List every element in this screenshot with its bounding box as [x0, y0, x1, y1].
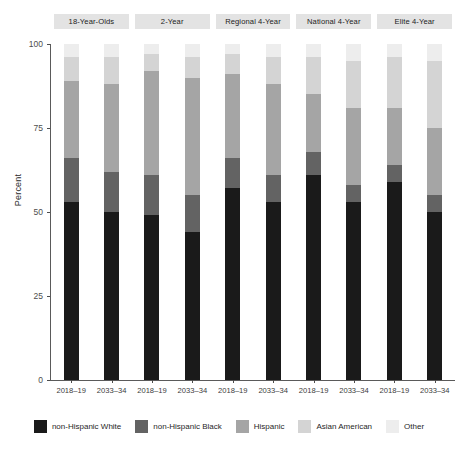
legend-swatch-icon: [386, 420, 399, 433]
x-axis-tick-label: 2033–34: [91, 386, 131, 395]
bar-group: [51, 44, 132, 380]
bar-segment: [104, 84, 119, 171]
chart-legend: non-Hispanic Whitenon-Hispanic BlackHisp…: [0, 420, 458, 433]
bar-group: [374, 44, 455, 380]
x-axis-tick-label: 2018–19: [374, 386, 414, 395]
x-axis-tick-label: 2018–19: [293, 386, 333, 395]
bar-segment: [387, 108, 402, 165]
legend-label: Asian American: [316, 422, 372, 431]
bar-segment: [225, 74, 240, 158]
x-axis-tick-mark: [71, 380, 72, 383]
facet-panel: 18-Year-Olds2018–192033–34: [51, 14, 132, 382]
panel-plot-area: 2018–192033–34: [374, 44, 455, 381]
y-axis-tick-label: 50: [34, 207, 43, 217]
bar-segment: [144, 71, 159, 175]
bar-segment: [306, 94, 321, 151]
x-axis-tick-label: 2033–34: [334, 386, 374, 395]
stacked-bar[interactable]: [387, 44, 402, 380]
x-axis-tick-label: 2033–34: [253, 386, 293, 395]
x-axis-tick-label: 2018–19: [51, 386, 91, 395]
bar-segment: [104, 57, 119, 84]
bar-segment: [185, 195, 200, 232]
stacked-bar[interactable]: [64, 44, 79, 380]
legend-swatch-icon: [34, 420, 47, 433]
facet-strip-18-year-olds: 18-Year-Olds: [54, 14, 129, 29]
bar-segment: [306, 152, 321, 176]
x-axis-tick-mark: [233, 380, 234, 383]
bar-segment: [64, 57, 79, 81]
x-axis-tick-label: 2018–19: [213, 386, 253, 395]
bar-segment: [144, 44, 159, 54]
bar-segment: [346, 185, 361, 202]
panel-plot-area: 2018–192033–34: [213, 44, 294, 381]
stacked-bar[interactable]: [346, 44, 361, 380]
x-axis-tick-mark: [314, 380, 315, 383]
x-axis-ticks: 2018–192033–34: [374, 380, 455, 406]
facet-strip-label: 2-Year: [161, 17, 184, 26]
facet-strip-elite-4-year: Elite 4-Year: [377, 14, 452, 29]
stacked-bar[interactable]: [185, 44, 200, 380]
facet-panel: National 4-Year2018–192033–34: [293, 14, 374, 382]
legend-item[interactable]: Hispanic: [236, 420, 285, 433]
bar-segment: [427, 61, 442, 128]
bar-segment: [266, 175, 281, 202]
legend-swatch-icon: [298, 420, 311, 433]
x-axis-tick-label: 2018–19: [132, 386, 172, 395]
x-axis-tick: 2018–19: [213, 380, 253, 406]
legend-item[interactable]: non-Hispanic White: [34, 420, 121, 433]
bar-segment: [64, 202, 79, 380]
y-axis-tick-label: 25: [34, 291, 43, 301]
stacked-bar[interactable]: [306, 44, 321, 380]
facet-panel: Regional 4-Year2018–192033–34: [213, 14, 294, 382]
legend-label: Other: [404, 422, 424, 431]
facet-panels: 18-Year-Olds2018–192033–342-Year2018–192…: [51, 14, 455, 382]
facet-strip-label: 18-Year-Olds: [69, 17, 115, 26]
facet-strip-label: National 4-Year: [307, 17, 361, 26]
facet-strip-regional-4-year: Regional 4-Year: [216, 14, 291, 29]
bar-segment: [387, 44, 402, 57]
x-axis-tick: 2033–34: [334, 380, 374, 406]
bar-segment: [144, 54, 159, 71]
bar-group: [132, 44, 213, 380]
x-axis-tick-mark: [273, 380, 274, 383]
x-axis-tick-mark: [112, 380, 113, 383]
bar-segment: [346, 108, 361, 185]
stacked-bar[interactable]: [427, 44, 442, 380]
x-axis-tick: 2018–19: [293, 380, 333, 406]
stacked-bar[interactable]: [266, 44, 281, 380]
bar-segment: [185, 232, 200, 380]
y-axis: 0255075100: [0, 0, 50, 454]
bar-segment: [104, 44, 119, 57]
x-axis-tick-mark: [192, 380, 193, 383]
bar-segment: [225, 158, 240, 188]
bar-segment: [185, 57, 200, 77]
bar-segment: [144, 215, 159, 380]
bar-segment: [427, 195, 442, 212]
bar-segment: [64, 158, 79, 202]
legend-item[interactable]: Other: [386, 420, 424, 433]
bar-segment: [387, 182, 402, 380]
x-axis-tick: 2033–34: [172, 380, 212, 406]
stacked-bar[interactable]: [144, 44, 159, 380]
bar-segment: [64, 81, 79, 158]
legend-item[interactable]: Asian American: [298, 420, 372, 433]
bar-segment: [427, 212, 442, 380]
bar-segment: [346, 44, 361, 61]
bar-segment: [266, 57, 281, 84]
bar-segment: [387, 165, 402, 182]
x-axis-tick: 2033–34: [415, 380, 455, 406]
bar-segment: [387, 57, 402, 107]
y-axis-tick-label: 100: [29, 39, 43, 49]
facet-strip-label: Elite 4-Year: [394, 17, 434, 26]
x-axis-ticks: 2018–192033–34: [51, 380, 132, 406]
facet-panel: 2-Year2018–192033–34: [132, 14, 213, 382]
x-axis-tick-label: 2033–34: [172, 386, 212, 395]
stacked-bar[interactable]: [225, 44, 240, 380]
bar-segment: [225, 54, 240, 74]
bar-group: [293, 44, 374, 380]
bar-segment: [64, 44, 79, 57]
bar-segment: [306, 44, 321, 57]
legend-item[interactable]: non-Hispanic Black: [135, 420, 221, 433]
y-axis-tick-label: 75: [34, 123, 43, 133]
stacked-bar[interactable]: [104, 44, 119, 380]
